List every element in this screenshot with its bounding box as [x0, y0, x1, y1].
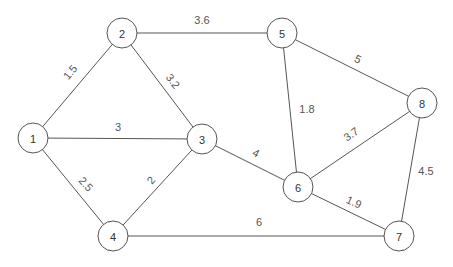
node-1: 1 [18, 123, 48, 153]
node-8: 8 [407, 88, 437, 118]
edge-weight-label: 6 [256, 216, 262, 228]
edges-layer [33, 33, 422, 236]
edge-weight-label: 3.2 [164, 71, 183, 90]
edge-1-3 [33, 138, 202, 139]
node-3: 3 [187, 124, 217, 154]
edge-1-4 [33, 138, 113, 236]
node-4: 4 [98, 221, 128, 251]
node-label: 3 [199, 134, 205, 146]
nodes-layer: 12345678 [18, 18, 437, 251]
edge-weight-label: 2 [144, 174, 157, 186]
edge-5-8 [282, 33, 422, 103]
edge-weight-label: 1.5 [60, 62, 79, 81]
node-label: 2 [119, 28, 125, 40]
node-6: 6 [283, 172, 313, 202]
node-label: 5 [279, 28, 285, 40]
edge-5-6 [282, 33, 298, 187]
node-7: 7 [384, 221, 414, 251]
edge-weight-label: 3.6 [194, 14, 209, 26]
edge-1-2 [33, 33, 122, 138]
edge-3-4 [113, 139, 202, 236]
node-label: 6 [295, 182, 301, 194]
edge-weight-label: 1.9 [345, 193, 364, 210]
edge-weight-label: 1.8 [299, 103, 314, 115]
edge-2-3 [122, 33, 202, 139]
edge-weight-label: 2.5 [76, 174, 95, 193]
edge-weight-label: 4.5 [418, 165, 433, 177]
node-label: 1 [30, 133, 36, 145]
edge-6-8 [298, 103, 422, 187]
edge-weight-label: 4 [250, 146, 261, 159]
node-label: 7 [396, 231, 402, 243]
edge-weight-label: 3 [115, 121, 121, 133]
edge-weight-label: 3.7 [341, 125, 360, 144]
edge-weight-label: 5 [353, 52, 364, 65]
node-2: 2 [107, 18, 137, 48]
graph-diagram: 1.532.53.23.62461.853.71.94.5 12345678 [0, 0, 453, 267]
node-5: 5 [267, 18, 297, 48]
node-label: 8 [419, 98, 425, 110]
edge-3-6 [202, 139, 298, 187]
node-label: 4 [110, 231, 116, 243]
